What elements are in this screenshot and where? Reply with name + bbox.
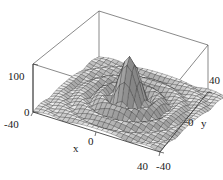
surface-plot-figure: 100 0 -40 0 40 -40 0 40 x y (0, 0, 223, 180)
tick-label-x-end: 40 (137, 160, 149, 172)
tick-x-min40 (31, 112, 33, 116)
plot-canvas: 100 0 -40 0 40 -40 0 40 x y (0, 0, 223, 180)
tick-label-y-mid: 0 (188, 116, 194, 128)
tick-x-40 (159, 152, 160, 156)
tick-y-min40 (160, 152, 164, 153)
surface-mesh (33, 57, 223, 152)
axis-label-x: x (73, 142, 79, 154)
tick-z-100 (33, 64, 38, 65)
axis-label-y: y (201, 117, 207, 129)
tick-label-y-start: -40 (156, 160, 171, 172)
tick-x-0 (95, 132, 96, 136)
tick-label-y-end: 40 (209, 74, 221, 86)
tick-label-z-bottom: 0 (24, 106, 30, 118)
tick-label-z-top: 100 (8, 70, 25, 82)
tick-label-x-mid: 0 (88, 135, 94, 147)
tick-label-x-start: -40 (4, 118, 19, 130)
